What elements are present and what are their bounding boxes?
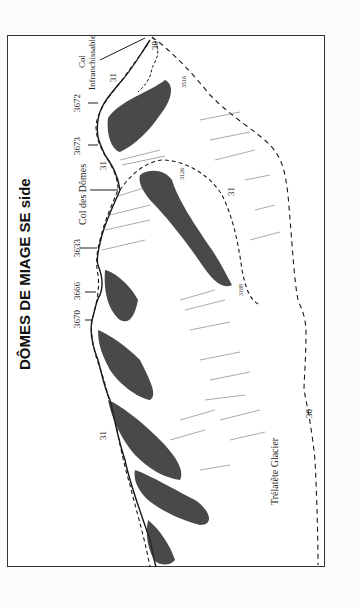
- summit-label-3672: 3672: [72, 94, 82, 112]
- rock-masses: [98, 80, 232, 565]
- glacier-label: Trélatête Glacier: [269, 437, 280, 505]
- route-number-31-ridge: 31: [98, 161, 108, 170]
- route-number-31-west: 31: [98, 431, 108, 440]
- mountain-diagram: DÔMES DE MIAGE SE side: [0, 0, 359, 607]
- diagram-title: DÔMES DE MIAGE SE side: [16, 178, 33, 370]
- summit-label-3670: 3670: [72, 310, 82, 329]
- summit-label-col-des-domes: Col des Dômes: [77, 164, 88, 225]
- col-label-line2: Infranchissable: [87, 35, 97, 90]
- spot-height-3126: 3126: [179, 168, 185, 180]
- route-number-30-top: 30: [150, 41, 160, 51]
- col-label-line1: Col: [77, 54, 87, 68]
- route-number-31-col: 31: [108, 73, 118, 82]
- summit-label-3673: 3673: [72, 137, 82, 156]
- route-number-30-glacier: 30: [304, 409, 314, 419]
- route-30-outer: [152, 37, 318, 565]
- summit-label-3666: 3666: [72, 282, 82, 301]
- spot-height-3189: 3189: [238, 284, 244, 296]
- spot-height-3516: 3516: [181, 76, 187, 88]
- route-number-31-inner: 31: [226, 187, 236, 196]
- summit-label-3633: 3633: [72, 239, 82, 258]
